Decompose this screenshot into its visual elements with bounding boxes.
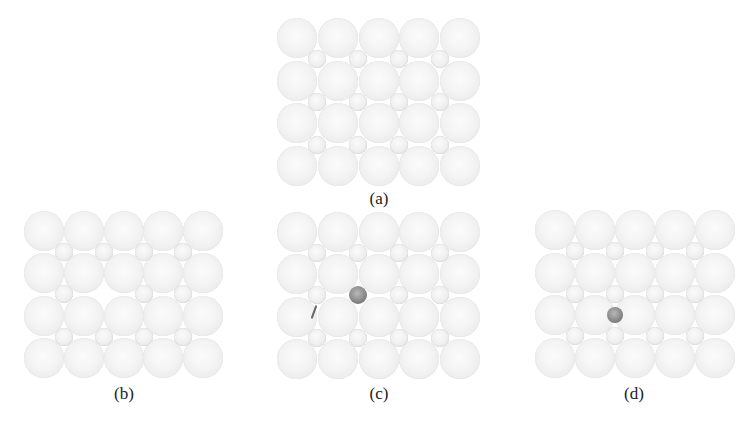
large-atom [440, 146, 480, 186]
small-atom [135, 328, 153, 346]
large-atom [399, 146, 439, 186]
small-atom [431, 329, 449, 347]
small-atom [606, 285, 624, 303]
small-atom [349, 136, 367, 154]
small-atom [646, 285, 664, 303]
small-atom [174, 328, 192, 346]
small-atom [566, 285, 584, 303]
large-atom [440, 339, 480, 379]
small-atom [390, 93, 408, 111]
panel-c-label: (c) [349, 384, 409, 404]
large-atom [615, 338, 655, 378]
dark-atom [607, 307, 623, 323]
large-atom [695, 338, 735, 378]
small-atom [135, 243, 153, 261]
small-atom [95, 243, 113, 261]
large-atom [575, 338, 615, 378]
small-atom [55, 243, 73, 261]
small-atom [431, 244, 449, 262]
small-atom [431, 136, 449, 154]
small-atom [686, 285, 704, 303]
dark-atom [349, 286, 367, 304]
panel-a-label: (a) [349, 189, 409, 209]
panel-b-label: (b) [94, 384, 154, 404]
small-atom [431, 93, 449, 111]
large-atom [440, 103, 480, 143]
large-atom [183, 338, 223, 378]
small-atom [55, 328, 73, 346]
small-atom [390, 329, 408, 347]
small-atom [95, 328, 113, 346]
small-atom [349, 329, 367, 347]
small-atom [390, 136, 408, 154]
large-atom [535, 338, 575, 378]
small-atom [135, 285, 153, 303]
panel-d-label: (d) [604, 384, 664, 404]
large-atom [655, 338, 695, 378]
